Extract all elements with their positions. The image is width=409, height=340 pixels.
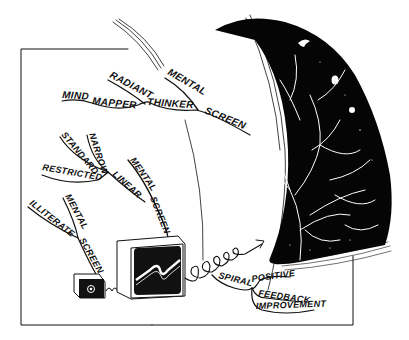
label-mind: MIND [62, 89, 89, 102]
label-screen-top: SCREEN [203, 105, 248, 132]
small-screen [74, 274, 105, 298]
label-improvement: IMPROVEMENT [256, 299, 328, 311]
label-spiral: SPIRAL [218, 270, 254, 288]
spiral-branch: SPIRAL POSITIVE FEEDBACK IMPROVEMENT [212, 268, 328, 313]
label-screen-low: SCREEN [77, 236, 105, 275]
cosmic-brain-panel [215, 18, 392, 270]
star-icon [349, 107, 355, 113]
lower-branch: ILLITERATE MENTAL SCREEN [28, 192, 106, 276]
label-positive: POSITIVE [251, 268, 297, 284]
label-thinker: THINKER [147, 96, 195, 110]
mind-map-illustration: MIND MAPPER RADIANT THINKER MENTAL SCREE… [0, 0, 409, 340]
top-branch: MIND MAPPER RADIANT THINKER MENTAL SCREE… [62, 66, 250, 135]
large-screen [117, 236, 185, 299]
label-screen-mid: SCREEN [148, 195, 172, 235]
planet-icon [332, 76, 339, 85]
label-mapper: MAPPER [92, 95, 138, 111]
label-mental-top: MENTAL [166, 66, 208, 97]
